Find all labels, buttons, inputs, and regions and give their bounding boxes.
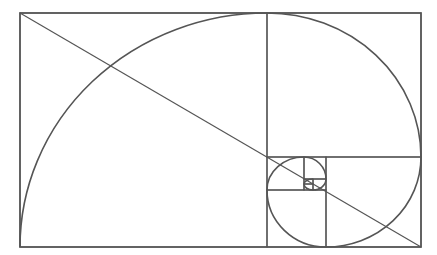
golden-spiral-diagram (0, 0, 437, 255)
background (0, 0, 437, 255)
